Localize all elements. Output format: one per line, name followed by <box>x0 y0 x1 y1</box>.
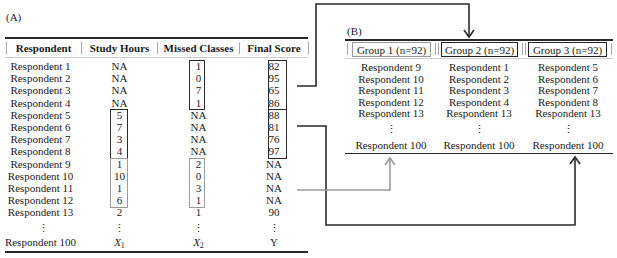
connector-arrows <box>0 0 617 258</box>
arrow-to-group-1 <box>297 158 395 190</box>
arrow-to-group-2 <box>297 4 474 86</box>
arrow-to-group-3 <box>297 126 580 225</box>
